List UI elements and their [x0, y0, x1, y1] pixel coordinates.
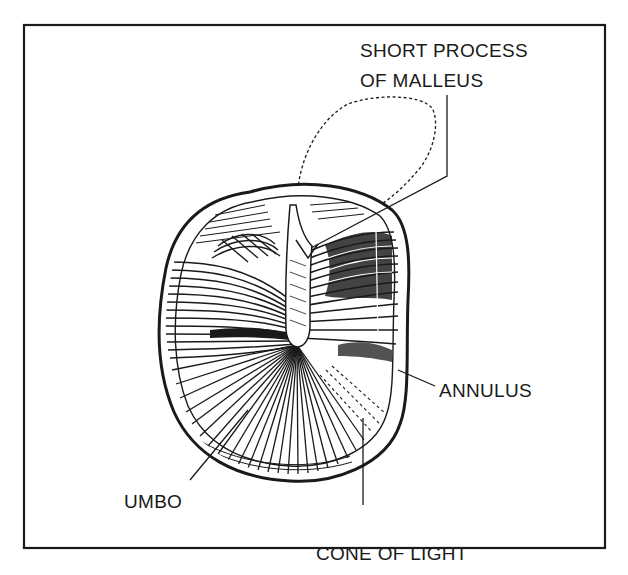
eardrum-illustration [0, 0, 628, 575]
label-cone-of-light: CONE OF LIGHT [316, 544, 468, 563]
label-short-process-line2: OF MALLEUS [360, 71, 483, 90]
label-annulus: ANNULUS [439, 381, 532, 400]
label-short-process-line1: SHORT PROCESS [360, 41, 528, 60]
label-umbo: UMBO [124, 492, 182, 511]
diagram-frame: SHORT PROCESS OF MALLEUS ANNULUS UMBO CO… [0, 0, 628, 575]
right-dark-shading [325, 232, 392, 300]
